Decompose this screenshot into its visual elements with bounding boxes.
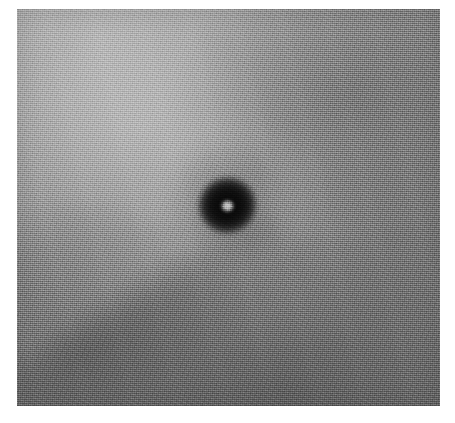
image-viewer: Grayscale close-up photograph: [0, 0, 455, 423]
film-grain-coarse-overlay: [17, 9, 440, 406]
photograph-plate: [17, 9, 440, 406]
